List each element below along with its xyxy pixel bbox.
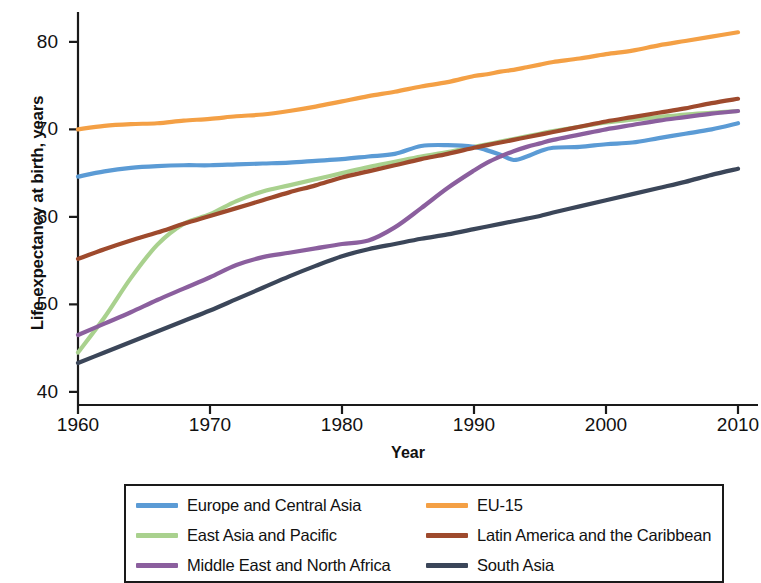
legend-item[interactable]: Middle East and North Africa	[136, 556, 426, 575]
legend-item-label: EU-15	[477, 496, 523, 515]
legend-color-swatch	[426, 503, 468, 508]
legend-color-swatch	[426, 563, 468, 568]
legend-item[interactable]: Europe and Central Asia	[136, 496, 426, 515]
chart-legend: Europe and Central AsiaEU-15East Asia an…	[124, 484, 724, 583]
legend-item-label: Latin America and the Caribbean	[477, 526, 711, 545]
legend-item-label: Europe and Central Asia	[187, 496, 361, 515]
legend-item[interactable]: Latin America and the Caribbean	[426, 526, 722, 545]
series-line-europe-and-central-asia	[78, 123, 738, 176]
chart-figure: Life expectancy at birth, years Year 405…	[0, 0, 761, 583]
legend-item-label: South Asia	[477, 556, 554, 575]
series-line-south-asia	[78, 169, 738, 363]
legend-item-label: Middle East and North Africa	[187, 556, 391, 575]
legend-color-swatch	[136, 563, 178, 568]
legend-item[interactable]: EU-15	[426, 496, 722, 515]
legend-color-swatch	[426, 533, 468, 538]
legend-color-swatch	[136, 503, 178, 508]
legend-item[interactable]: East Asia and Pacific	[136, 526, 426, 545]
legend-item[interactable]: South Asia	[426, 556, 722, 575]
legend-color-swatch	[136, 533, 178, 538]
series-line-east-asia-and-pacific	[78, 111, 738, 353]
legend-item-label: East Asia and Pacific	[187, 526, 337, 545]
series-line-middle-east-and-north-africa	[78, 111, 738, 335]
